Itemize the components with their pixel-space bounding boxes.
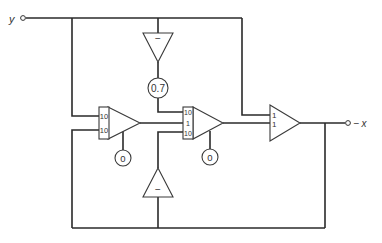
coefficient-to-integrator2-wire xyxy=(158,98,183,112)
output-label: − x xyxy=(353,118,368,129)
integrator2-initial-condition: 0 xyxy=(207,152,212,163)
inverter-bottom: − xyxy=(143,168,173,197)
integrator-1: 10 10 0 xyxy=(99,107,140,166)
input-terminal: y xyxy=(8,13,25,25)
coefficient-pot: 0.7 xyxy=(148,78,168,98)
integrator1-gain-1: 10 xyxy=(100,112,108,121)
output-terminal-icon xyxy=(346,121,351,126)
summer: 1 1 xyxy=(270,105,300,141)
feedback-to-integrator1-wire xyxy=(72,130,99,228)
integrator2-gain-2: 1 xyxy=(186,120,190,127)
input-terminal-icon xyxy=(21,16,26,21)
integrator2-triangle-icon xyxy=(193,107,223,139)
output-terminal: − x xyxy=(346,118,368,129)
summer-gain-1: 1 xyxy=(272,111,277,120)
inverter-top: − xyxy=(143,33,173,62)
integrator1-gain-2: 10 xyxy=(100,126,108,135)
inverter-bottom-to-integrator2-wire xyxy=(158,132,183,168)
integrator-2: 10 1 10 0 xyxy=(183,107,223,165)
inverter-top-sign: − xyxy=(155,33,161,44)
input-to-summer-wire xyxy=(242,18,270,115)
integrator1-initial-condition: 0 xyxy=(120,153,125,164)
integrator2-gain-1: 10 xyxy=(184,109,192,116)
summer-gain-2: 1 xyxy=(272,120,277,129)
integrator1-triangle-icon xyxy=(108,107,140,139)
analog-computer-diagram: y − 0.7 10 10 0 10 1 10 0 − 1 1 xyxy=(0,0,382,243)
integrator2-gain-3: 10 xyxy=(184,130,192,137)
inverter-bottom-sign: − xyxy=(155,184,161,195)
input-to-integrator1-wire xyxy=(72,18,99,116)
coefficient-value: 0.7 xyxy=(151,83,165,94)
input-label: y xyxy=(8,13,16,25)
